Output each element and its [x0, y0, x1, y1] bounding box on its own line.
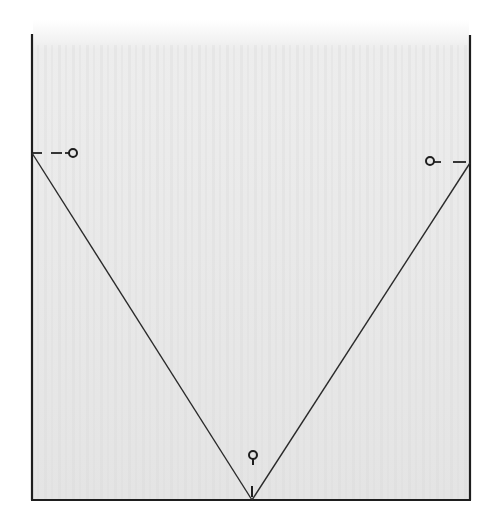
shading-texture: [33, 45, 469, 500]
v-string-diagram: [0, 0, 496, 530]
